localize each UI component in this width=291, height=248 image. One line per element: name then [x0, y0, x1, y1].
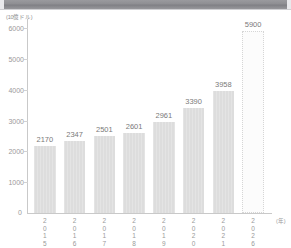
y-axis-line — [27, 19, 28, 214]
y-axis-tick-label: 5000 — [0, 55, 24, 62]
bar — [34, 146, 55, 213]
y-axis-tick-mark — [24, 90, 28, 91]
bar-value-label: 2601 — [126, 122, 143, 131]
y-axis-tick-label: 6000 — [0, 25, 24, 32]
title-bar-right-cap — [287, 0, 291, 9]
bar-value-label: 2961 — [156, 111, 173, 120]
y-axis-tick-label: 4000 — [0, 86, 24, 93]
bar-group: 3958 — [213, 79, 234, 213]
y-axis-tick-label: 3000 — [0, 117, 24, 124]
x-axis-tick-label: 2015 — [37, 217, 53, 247]
y-axis-tick-mark — [24, 28, 28, 29]
bar-group: 2170 — [34, 134, 55, 213]
bar-value-label: 3958 — [215, 80, 232, 89]
x-axis-tick-label: 2019 — [156, 217, 172, 247]
bar-value-label: 2501 — [96, 125, 113, 134]
y-axis-tick-mark — [24, 151, 28, 152]
x-axis-tick-label: 2017 — [96, 217, 112, 247]
y-axis-tick-label: 1000 — [0, 179, 24, 186]
bar — [94, 136, 115, 213]
bar-group: 5900 — [242, 19, 263, 213]
y-axis-tick-label: 0 — [18, 209, 22, 216]
y-axis-tick-mark — [24, 121, 28, 122]
bar-value-label: 2347 — [66, 130, 83, 139]
bar — [213, 91, 234, 213]
y-axis-tick-mark — [24, 59, 28, 60]
y-axis-unit-label: (10億ドル) — [6, 13, 32, 21]
x-axis-tick-label: 2026 — [245, 217, 261, 247]
bar-forecast — [242, 31, 263, 213]
x-axis-tick-label: 2020 — [186, 217, 202, 247]
x-axis-line — [27, 213, 272, 214]
bar-group: 2347 — [64, 129, 85, 213]
bar-group: 2501 — [94, 124, 115, 213]
bar — [153, 122, 174, 213]
bar-group: 2961 — [153, 110, 174, 213]
bar-chart: (10億ドル) 1000200030004000500060000 217023… — [0, 9, 291, 248]
bar-value-label: 3390 — [185, 97, 202, 106]
title-bar-left-cap — [0, 0, 4, 9]
y-axis-tick-label: 2000 — [0, 148, 24, 155]
x-axis-unit-label: (年) — [276, 217, 286, 225]
x-axis-tick-label: 2016 — [67, 217, 83, 247]
bar — [123, 133, 144, 213]
y-axis-tick-mark — [24, 182, 28, 183]
bar — [64, 141, 85, 213]
x-axis-tick-label: 2021 — [215, 217, 231, 247]
bar-group: 3390 — [183, 96, 204, 213]
bar-value-label: 2170 — [37, 135, 54, 144]
x-axis-tick-label: 2018 — [126, 217, 142, 247]
bar — [183, 108, 204, 213]
bar-group: 2601 — [123, 121, 144, 213]
bar-value-label: 5900 — [245, 20, 262, 29]
